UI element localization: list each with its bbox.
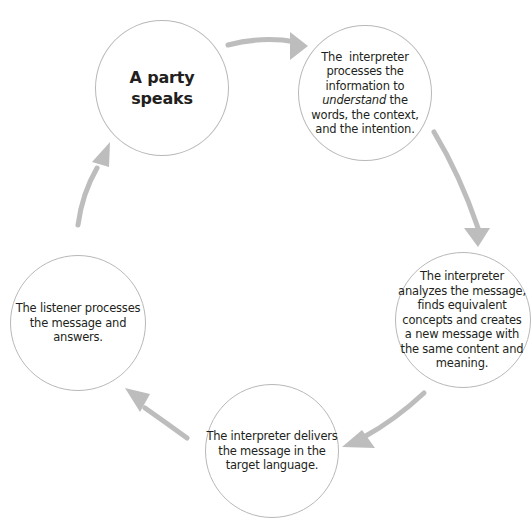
label-line: the message and bbox=[16, 316, 141, 331]
node-interpreter-analyzes-label: The interpreter analyzes the message, fi… bbox=[398, 269, 526, 371]
node-speaker-label: A party speaks bbox=[130, 67, 195, 109]
label-line-rest: the bbox=[386, 93, 408, 107]
label-line: the message in the bbox=[206, 444, 337, 459]
label-line: finds equivalent bbox=[398, 298, 526, 313]
arrow-speaker-to-understand bbox=[228, 40, 296, 45]
arrow-listener-to-speaker bbox=[78, 168, 97, 225]
label-line: answers. bbox=[16, 330, 141, 345]
label-line: processes the bbox=[311, 64, 418, 79]
arrow-understand-to-analyze bbox=[434, 132, 478, 228]
arrowhead-understand-to-analyze bbox=[464, 228, 490, 247]
node-interpreter-delivers-label: The interpreter delivers the message in … bbox=[206, 429, 337, 473]
node-speaker: A party speaks bbox=[95, 20, 229, 156]
arrow-analyze-to-deliver bbox=[364, 393, 424, 437]
label-line: meaning. bbox=[398, 356, 526, 371]
label-line: words, the context, bbox=[311, 108, 418, 123]
label-line: The interpreter delivers bbox=[206, 429, 337, 444]
arrowhead-speaker-to-understand bbox=[290, 32, 308, 60]
label-line: target language. bbox=[206, 458, 337, 473]
label-line: and the intention. bbox=[311, 122, 418, 137]
arrow-deliver-to-listener bbox=[145, 408, 187, 438]
label-line: The interpreter bbox=[398, 269, 526, 284]
arrowhead-listener-to-speaker bbox=[92, 142, 110, 167]
label-line: a new message with bbox=[398, 327, 526, 342]
label-line: The interpreter bbox=[311, 50, 418, 65]
emphasis-understand: understand bbox=[322, 93, 386, 107]
label-line: The listener processes bbox=[16, 301, 141, 316]
node-interpreter-analyzes: The interpreter analyzes the message, fi… bbox=[395, 252, 531, 388]
label-line: the same content and bbox=[398, 342, 526, 357]
node-interpreter-understands: The interpreter processes the informatio… bbox=[298, 25, 432, 161]
node-listener-label: The listener processes the message and a… bbox=[16, 301, 141, 345]
label-line: information to bbox=[311, 79, 418, 94]
label-line: analyzes the message, bbox=[398, 284, 526, 299]
node-listener: The listener processes the message and a… bbox=[10, 255, 146, 391]
label-line: speaks bbox=[130, 88, 195, 109]
node-interpreter-understands-label: The interpreter processes the informatio… bbox=[311, 50, 418, 137]
label-line: understand the bbox=[311, 93, 418, 108]
label-line: concepts and creates bbox=[398, 313, 526, 328]
label-line: A party bbox=[130, 67, 195, 88]
node-interpreter-delivers: The interpreter delivers the message in … bbox=[205, 384, 339, 518]
